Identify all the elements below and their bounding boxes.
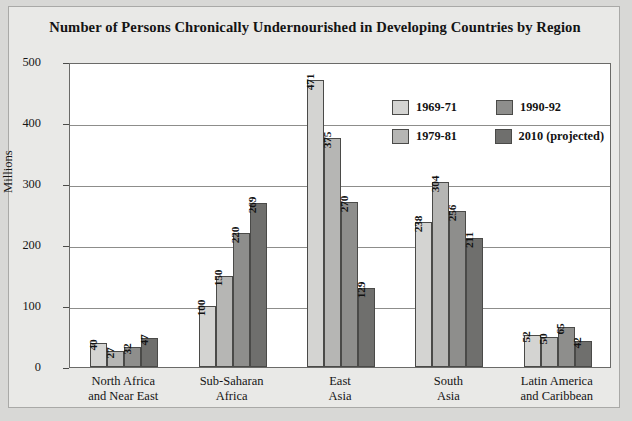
x-axis-label: Latin Americaand Caribbean [483, 374, 631, 403]
bar: 42 [575, 341, 592, 367]
y-tick-mark [63, 368, 69, 369]
legend-swatch-icon [495, 129, 512, 144]
bar-value-label: 52 [520, 332, 532, 343]
legend-entry-1990-92: 1990-92 [496, 100, 561, 115]
chart-figure: Number of Persons Chronically Undernouri… [8, 6, 620, 408]
bar-value-label: 50 [537, 333, 549, 344]
legend-label: 1990-92 [520, 100, 561, 115]
legend-swatch-icon [496, 100, 513, 115]
plot-area: 4027324710015022026947137527012923830425… [69, 63, 611, 368]
bar: 50 [541, 337, 558, 368]
legend-label: 1979-81 [416, 129, 457, 144]
y-tick-label: 300 [0, 177, 41, 192]
legend-entry-1979-81: 1979-81 [392, 129, 495, 144]
bar-value-label: 42 [571, 338, 583, 349]
y-tick-label: 400 [0, 116, 41, 131]
legend-swatch-icon [392, 100, 409, 115]
bar-value-label: 65 [554, 324, 566, 335]
legend-row: 1979-81 2010 (projected) [392, 129, 604, 144]
x-axis-label-line1: Latin America [483, 374, 631, 389]
y-tick-label: 0 [0, 360, 41, 375]
chart-legend: 1969-71 1990-92 1979-81 2010 (projected) [392, 100, 604, 158]
y-tick-label: 200 [0, 238, 41, 253]
chart-title: Number of Persons Chronically Undernouri… [9, 19, 621, 36]
source-note [10, 411, 310, 420]
legend-entry-1969-71: 1969-71 [392, 100, 496, 115]
legend-label: 1969-71 [416, 100, 457, 115]
legend-swatch-icon [392, 129, 409, 144]
x-axis-label-line2: and Caribbean [483, 389, 631, 404]
y-tick-label: 100 [0, 299, 41, 314]
legend-label: 2010 (projected) [519, 129, 604, 144]
y-tick-label: 500 [0, 55, 41, 70]
legend-entry-2010-projected: 2010 (projected) [495, 129, 604, 144]
legend-row: 1969-71 1990-92 [392, 100, 604, 115]
